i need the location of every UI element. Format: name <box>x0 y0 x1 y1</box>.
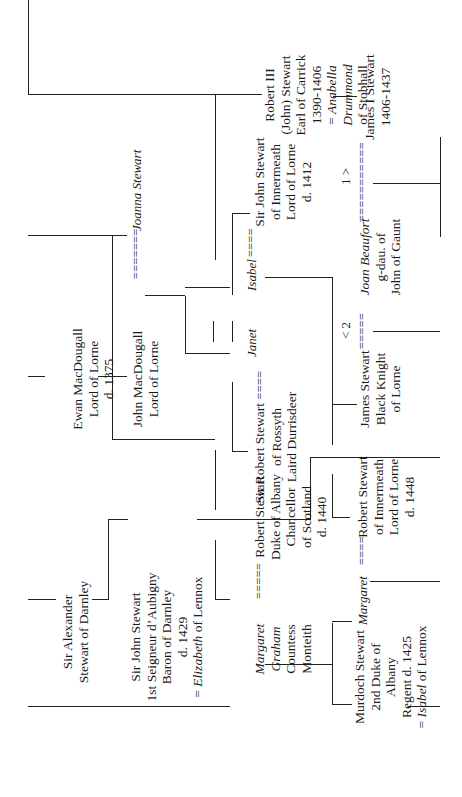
connector-line <box>332 278 333 445</box>
marriage-mark: ======= <box>129 228 144 279</box>
title-line: Monteith <box>299 624 315 675</box>
person-alexander-stewart: Sir Alexander Stewart of Darnley <box>60 581 91 684</box>
connector-line <box>108 520 109 600</box>
name-line: Murdoch Stewart <box>352 625 368 728</box>
title-line: John of Gaunt <box>388 219 404 296</box>
connector-line <box>373 183 440 184</box>
title-line: Chancellor <box>283 474 299 560</box>
title-line: Albany <box>383 625 399 728</box>
connector-line <box>332 621 352 622</box>
person-joan-beaufort: Joan Beaufort g-dau. of John of Gaunt <box>357 219 404 296</box>
connector-line <box>370 581 440 582</box>
title-line: Duke of Albany <box>268 474 284 560</box>
title-line: Stewart of Darnley <box>76 581 92 684</box>
connector-line <box>28 0 29 95</box>
marriage-mark: ==== <box>244 228 259 257</box>
dates-line: 1390-1406 <box>309 55 325 136</box>
order-label-second: < 2 <box>338 322 354 339</box>
title-line: Lord of Lorne <box>146 331 162 427</box>
person-margaret-graham: Margaret Graham Countess Monteith <box>252 624 314 675</box>
marriage-mark: ===== <box>252 563 267 599</box>
person-ewan-macdougall: Ewan MacDougall Lord of Lorne d. 1375 <box>70 328 117 430</box>
title-line: Earl of Carrick <box>293 55 309 136</box>
person-robert-iii: Robert III (John) Stewart Earl of Carric… <box>262 55 371 136</box>
spouse-name: Elizabeth <box>190 636 205 687</box>
connector-line <box>215 599 230 600</box>
spouse-name: Isabel <box>414 685 429 718</box>
connector-line <box>215 95 216 260</box>
name-line: Sir Alexander <box>60 581 76 684</box>
person-joanna-stewart: Joanna Stewart <box>129 150 145 231</box>
connector-line <box>373 331 440 332</box>
connector-line <box>232 382 233 452</box>
person-james-i: James I Stewart 1406-1437 <box>362 54 393 139</box>
connector-line <box>232 214 233 295</box>
title-line: Black Knight <box>373 350 389 428</box>
dates-line: d. 1412 <box>299 137 315 226</box>
dates-line: 1406-1437 <box>378 54 394 139</box>
person-robert-stewart-albany: Robert Stewart Duke of Albany Chancellor… <box>252 474 330 560</box>
connector-line <box>28 706 230 707</box>
person-john-stewart-darnley: Sir John Stewart 1st Seigneur d’Aubigny … <box>128 573 206 702</box>
person-murdoch-stewart: Murdoch Stewart 2nd Duke of Albany Regen… <box>352 625 430 728</box>
connector-line <box>332 517 350 518</box>
connector-line <box>145 295 185 296</box>
title-line: of Scotland <box>299 474 315 560</box>
name-line: James I Stewart <box>362 54 378 139</box>
person-john-macdougall: John MacDougall Lord of Lorne <box>130 331 161 427</box>
dates-line: d. 1375 <box>101 328 117 430</box>
name-line: Joan Beaufort <box>357 219 373 296</box>
person-robert-stewart-innermeath: Robert Stewart of Innermeath Lord of Lor… <box>355 456 417 537</box>
connector-line <box>332 623 333 705</box>
spouse-line: = Anabella <box>324 55 340 136</box>
dates-line: d. 1448 <box>402 456 418 537</box>
connector-line <box>28 94 215 95</box>
name-line: Sir John Stewart <box>252 137 268 226</box>
spouse-name: Drummond <box>340 55 356 136</box>
name-line: Sir John Stewart <box>128 573 144 702</box>
connector-line <box>28 599 56 600</box>
person-john-stewart-innermeath: Sir John Stewart of Innermeath Lord of L… <box>252 137 314 226</box>
title-line: of Lorne <box>388 350 404 428</box>
marriage-mark: ===== <box>355 313 370 349</box>
name-line: Robert III <box>262 55 278 136</box>
title-line: 1st Seigneur d’Aubigny <box>144 573 160 702</box>
title-line: of Innermeath <box>268 137 284 226</box>
connector-line <box>215 94 262 95</box>
title-line: Baron of Darnley <box>159 573 175 702</box>
title-line: Lord of Lorne <box>283 137 299 226</box>
connector-line <box>215 540 216 600</box>
dates-line: Regent d. 1425 <box>399 625 415 728</box>
person-isabel: Isabel <box>244 259 260 291</box>
title-line: of Innermeath <box>371 456 387 537</box>
connector-line <box>197 519 230 520</box>
title-line: g-dau. of <box>373 219 389 296</box>
person-margaret: Margaret <box>355 576 371 625</box>
spouse-line: = Isabel of Lennox <box>414 625 430 728</box>
name-line: Ewan MacDougall <box>70 328 86 430</box>
connector-line <box>440 137 441 237</box>
genealogy-diagram: Ewan MacDougall Lord of Lorne d. 1375 Jo… <box>0 0 462 797</box>
connector-line <box>232 321 233 342</box>
title-line: 2nd Duke of <box>368 625 384 728</box>
order-label-first: 1 > <box>338 168 354 185</box>
connector-line <box>92 599 109 600</box>
marriage-mark: ==== <box>253 371 267 400</box>
connector-line <box>185 353 230 354</box>
title-line: Countess <box>283 624 299 675</box>
name-line: Robert Stewart <box>355 456 371 537</box>
person-janet: Janet <box>244 329 260 357</box>
name-line: Graham <box>268 624 284 675</box>
dates-line: d. 1440 <box>314 474 330 560</box>
name-line: John MacDougall <box>130 331 146 427</box>
connector-line <box>332 704 352 705</box>
spouse-line: = Elizabeth of Lennox <box>190 573 206 702</box>
connector-line <box>112 439 215 440</box>
connector-line <box>332 474 333 518</box>
title-line: Lord of Lorne <box>386 456 402 537</box>
name-line: Robert Stewart <box>252 474 268 560</box>
marriage-mark: =========== <box>355 142 370 222</box>
dates-line: d. 1429 <box>175 573 191 702</box>
person-james-black-knight: James Stewart Black Knight of Lorne <box>357 350 404 428</box>
connector-line <box>185 287 230 288</box>
